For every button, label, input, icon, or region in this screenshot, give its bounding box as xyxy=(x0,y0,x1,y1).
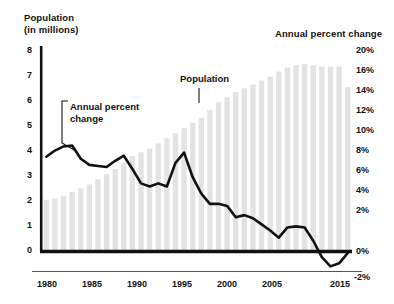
chart-container: Population (in millions) Annual percent … xyxy=(0,0,394,304)
population-bar xyxy=(268,77,273,251)
population-bar xyxy=(302,64,307,251)
population-bar xyxy=(285,68,290,251)
population-bar xyxy=(156,143,161,251)
population-bar xyxy=(319,67,324,252)
population-bar xyxy=(345,87,350,251)
population-bar xyxy=(216,102,221,251)
population-bar xyxy=(199,118,204,251)
population-bar xyxy=(190,123,195,251)
population-bar xyxy=(69,192,74,251)
population-bar xyxy=(87,184,92,251)
annual-percent-change-leader-line xyxy=(62,101,74,150)
population-bar xyxy=(104,174,109,251)
population-bar xyxy=(78,188,83,251)
plot-area xyxy=(0,0,394,304)
population-bar xyxy=(181,128,186,251)
population-bar xyxy=(95,179,100,251)
population-bar xyxy=(224,97,229,251)
population-bar xyxy=(276,72,281,251)
population-bar xyxy=(242,88,247,251)
population-bar xyxy=(44,200,49,251)
population-bar xyxy=(113,169,118,251)
population-bar xyxy=(61,196,66,251)
population-bars xyxy=(44,64,351,251)
population-bar xyxy=(250,84,255,251)
population-bar xyxy=(293,65,298,251)
population-bar xyxy=(207,110,212,251)
population-bar xyxy=(52,198,57,251)
population-bar xyxy=(121,163,126,251)
population-bar xyxy=(147,149,152,252)
population-bar xyxy=(138,152,143,251)
population-bar xyxy=(328,67,333,252)
population-bar xyxy=(173,133,178,251)
population-bar xyxy=(164,138,169,251)
population-bar xyxy=(336,67,341,252)
population-bar xyxy=(233,92,238,251)
population-bar xyxy=(311,65,316,251)
